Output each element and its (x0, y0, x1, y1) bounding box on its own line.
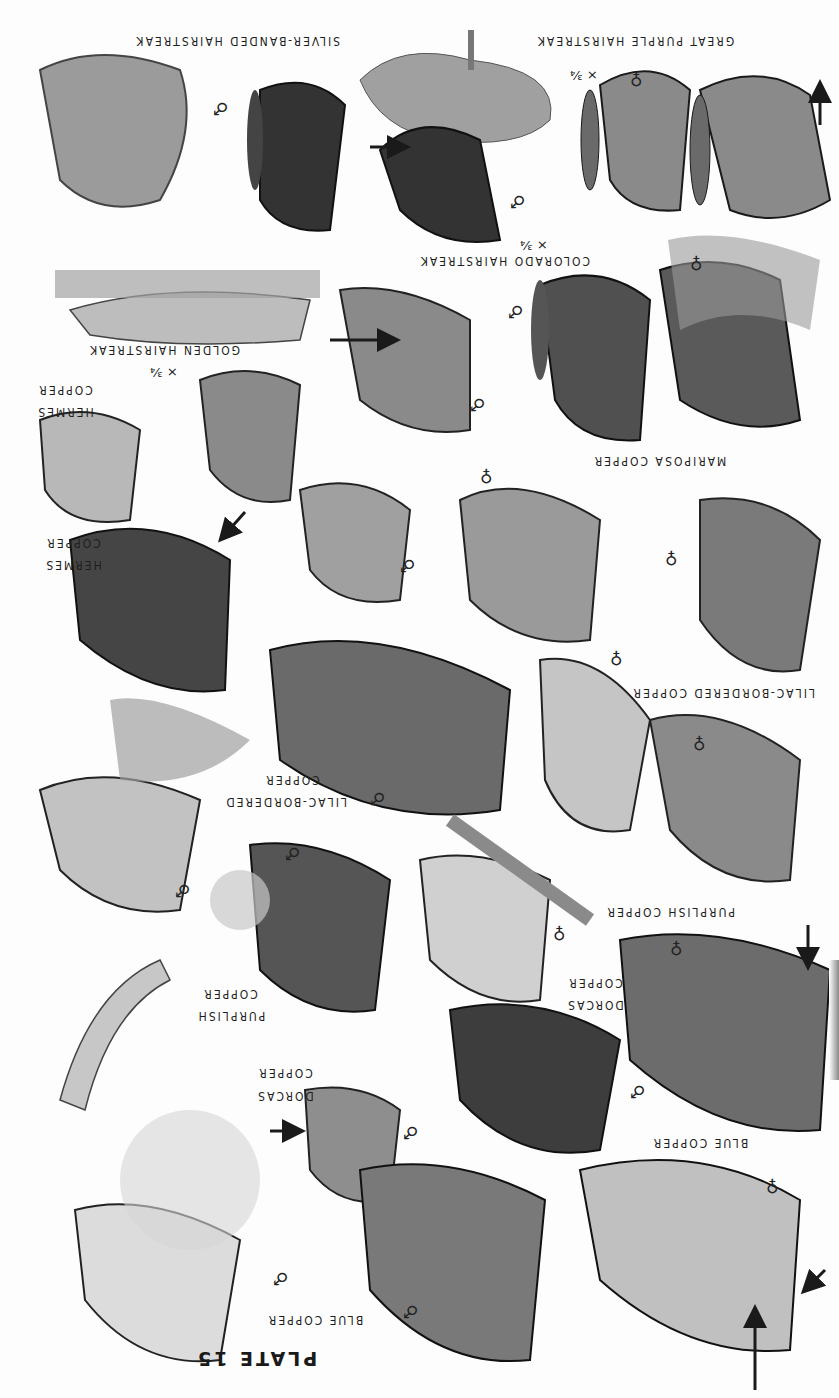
species-label-hermes-copper-1a: HERMES (35, 405, 95, 419)
male-symbol-icon: ♂ (175, 882, 190, 899)
species-label-dorcas-copper-left-a: DORCAS (255, 1089, 315, 1103)
species-label-blue-copper-right: BLUE COPPER (650, 1136, 750, 1150)
species-label-colorado-hairstreak: COLORADO HAIRSTREAK (425, 254, 590, 268)
female-symbol-icon: ♀ (690, 255, 702, 272)
species-label-blue-copper-left: BLUE COPPER (265, 1313, 365, 1327)
species-label-silver-banded-hairstreak: SILVER-BANDED HAIRSTREAK (140, 34, 340, 48)
male-symbol-icon: ♂ (273, 1270, 288, 1287)
female-symbol-icon: ♀ (665, 550, 677, 567)
scale-mark-scale-golden: × ³⁄₄ (150, 365, 178, 380)
male-symbol-icon: ♂ (470, 396, 485, 413)
caterpillar-illustration (60, 960, 170, 1110)
hermes-copper-underside-illustration (40, 412, 140, 522)
male-symbol-icon: ♂ (400, 557, 415, 574)
male-symbol-icon: ♂ (213, 100, 228, 117)
species-label-hermes-copper-1b: COPPER (35, 383, 95, 397)
blue-copper-male-illustration (360, 1164, 545, 1361)
silver-banded-hairstreak-plant (360, 30, 551, 143)
species-label-lilac-bordered-copper-left-b: COPPER (262, 773, 322, 787)
species-label-golden-hairstreak: GOLDEN HAIRSTREAK (90, 343, 240, 357)
species-label-lilac-bordered-copper-left-a: LILAC-BORDERED (232, 795, 347, 809)
female-symbol-icon: ♀ (693, 735, 705, 752)
silver-banded-hairstreak-underside-illustration (40, 55, 187, 207)
female-symbol-icon: ♀ (610, 650, 622, 667)
colorado-hairstreak-underside-illustration (340, 288, 470, 432)
silver-banded-hairstreak-male-illustration (380, 127, 500, 242)
dorcas-copper-female-illustration (620, 934, 830, 1131)
colorado-hairstreak-male-illustration (540, 275, 650, 440)
male-symbol-icon: ♂ (508, 303, 523, 320)
hermes-copper-upperside-illustration (70, 529, 230, 692)
female-symbol-icon: ♀ (553, 925, 565, 942)
species-label-great-purple-hairstreak: GREAT PURPLE HAIRSTREAK (535, 34, 735, 48)
purplish-copper-male-illustration (250, 843, 390, 1011)
female-symbol-icon: ♀ (670, 940, 682, 957)
species-label-lilac-bordered-copper-right: LILAC-BORDERED COPPER (635, 686, 815, 700)
species-label-purplish-copper-right: PURPLISH COPPER (610, 905, 735, 919)
female-symbol-icon: ♀ (630, 71, 642, 88)
species-label-dorcas-copper-right-b: COPPER (565, 976, 625, 990)
species-label-purplish-copper-left-a: PURPLISH (196, 1009, 266, 1023)
species-label-hermes-copper-2a: HERMES (43, 558, 103, 572)
field-guide-plate: GREAT PURPLE HAIRSTREAKSILVER-BANDED HAI… (0, 0, 839, 1398)
species-label-mariposa-copper: MARIPOSA COPPER (592, 454, 727, 468)
golden-hairstreak-adult-illustration (200, 371, 300, 502)
scale-mark-scale-colorado: × ³⁄₄ (520, 238, 548, 253)
great-purple-hairstreak-female-illustration (690, 76, 830, 218)
male-symbol-icon: ♂ (630, 1083, 645, 1100)
male-symbol-icon: ♂ (370, 790, 385, 807)
species-label-purplish-copper-left-b: COPPER (200, 987, 260, 1001)
species-label-dorcas-copper-left-b: COPPER (255, 1066, 315, 1080)
page-edge-shadow (829, 960, 839, 1080)
lilac-bordered-copper-female-illustration (650, 715, 800, 881)
male-symbol-icon: ♂ (510, 193, 525, 210)
species-label-dorcas-copper-right-a: DORCAS (565, 998, 625, 1012)
scale-mark-scale-great-purple: × ³⁄₄ (570, 68, 598, 83)
female-symbol-icon: ♀ (766, 1178, 778, 1195)
male-symbol-icon: ♂ (285, 845, 300, 862)
mariposa-copper-female-illustration (460, 489, 600, 642)
dorcas-copper-male-illustration (450, 1004, 620, 1153)
male-symbol-icon: ♂ (403, 1303, 418, 1320)
species-label-hermes-copper-2b: COPPER (43, 536, 103, 550)
flower-illustration (120, 1110, 260, 1250)
silver-banded-hairstreak-upperside-illustration (260, 83, 345, 231)
great-purple-hairstreak-male-illustration (581, 71, 690, 210)
plate-title: PLATE 15 (195, 1348, 317, 1370)
female-symbol-icon: ♀ (480, 468, 492, 485)
male-symbol-icon: ♂ (403, 1124, 418, 1141)
mariposa-copper-female-upperside-illustration (700, 498, 820, 671)
golden-hairstreak-pupa-illustration (70, 292, 310, 344)
mariposa-copper-male-illustration (300, 483, 410, 602)
lilac-bordered-copper-male-upperside-illustration (270, 641, 510, 814)
lilac-bordered-copper-female-underside-illustration (540, 659, 650, 832)
